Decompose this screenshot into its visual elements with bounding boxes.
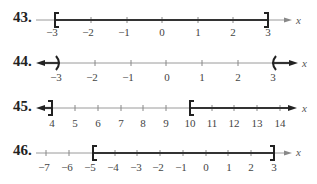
svg-text:−3: −3 <box>46 26 58 38</box>
tick-labels: −3 −2 −1 0 1 2 3 <box>50 71 276 83</box>
svg-text:−3: −3 <box>50 71 62 83</box>
axis-label: x <box>295 14 301 26</box>
number-line-46: −7 −6 −5 −4 −3 −2 −1 0 1 2 3 x <box>0 135 317 184</box>
svg-text:−2: −2 <box>86 71 98 83</box>
svg-text:−2: −2 <box>82 26 94 38</box>
svg-text:−7: −7 <box>38 161 50 173</box>
svg-text:4: 4 <box>49 117 55 129</box>
svg-text:12: 12 <box>229 117 240 129</box>
svg-text:3: 3 <box>270 71 276 83</box>
svg-text:10: 10 <box>185 117 197 129</box>
svg-text:0: 0 <box>159 26 165 38</box>
svg-text:−2: −2 <box>152 161 164 173</box>
tick-labels: −3 −2 −1 0 1 2 3 <box>46 26 271 38</box>
svg-text:2: 2 <box>248 161 254 173</box>
svg-text:1: 1 <box>226 161 232 173</box>
tick-labels: 4 5 6 7 8 9 10 11 12 13 14 <box>49 117 286 129</box>
svg-text:2: 2 <box>230 26 236 38</box>
svg-text:1: 1 <box>199 71 205 83</box>
problem-46: 46. −7 −6 −5 −4 −3 −2 −1 0 1 2 <box>0 135 317 181</box>
svg-text:−3: −3 <box>130 161 142 173</box>
svg-text:−5: −5 <box>84 161 96 173</box>
problem-44: 44. −3 −2 −1 0 1 2 3 x <box>0 45 317 91</box>
svg-text:1: 1 <box>195 26 201 38</box>
axis-label: x <box>301 57 307 69</box>
svg-text:2: 2 <box>235 71 241 83</box>
svg-text:−1: −1 <box>118 26 130 38</box>
number-line-45: 4 5 6 7 8 9 10 11 12 13 14 x <box>0 90 317 136</box>
svg-text:8: 8 <box>140 117 146 129</box>
svg-text:3: 3 <box>265 26 271 38</box>
number-line-43: −3 −2 −1 0 1 2 3 x <box>0 0 317 46</box>
axis-label: x <box>301 102 307 114</box>
axis-label: x <box>295 146 301 158</box>
svg-text:−1: −1 <box>175 161 187 173</box>
svg-text:11: 11 <box>207 117 218 129</box>
problem-43: 43. −3 −2 −1 0 1 2 3 x <box>0 0 317 46</box>
tick-labels: −7 −6 −5 −4 −3 −2 −1 0 1 2 3 <box>38 161 277 173</box>
svg-text:3: 3 <box>271 161 277 173</box>
svg-text:0: 0 <box>164 71 170 83</box>
svg-text:−4: −4 <box>107 161 119 173</box>
svg-text:14: 14 <box>275 117 287 129</box>
svg-text:−1: −1 <box>122 71 134 83</box>
svg-text:−6: −6 <box>61 161 73 173</box>
number-line-44: −3 −2 −1 0 1 2 3 x <box>0 45 317 91</box>
svg-text:0: 0 <box>203 161 209 173</box>
svg-text:13: 13 <box>252 117 264 129</box>
svg-text:6: 6 <box>95 117 101 129</box>
problem-45: 45. 4 5 6 7 8 9 10 11 12 <box>0 90 317 136</box>
svg-text:5: 5 <box>72 117 78 129</box>
svg-text:7: 7 <box>118 117 124 129</box>
svg-text:9: 9 <box>163 117 169 129</box>
